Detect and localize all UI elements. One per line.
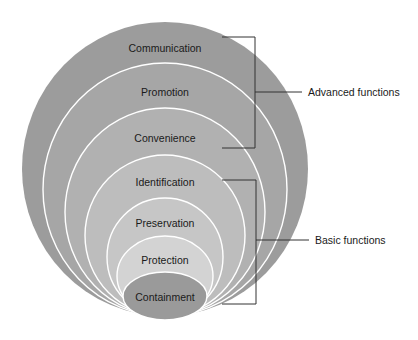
nested-ellipses bbox=[22, 22, 308, 320]
layer-label-identification: Identification bbox=[136, 176, 195, 188]
packaging-functions-diagram: CommunicationPromotionConvenienceIdentif… bbox=[0, 0, 418, 340]
layer-label-convenience: Convenience bbox=[134, 132, 195, 144]
basic-functions-label: Basic functions bbox=[315, 234, 386, 246]
advanced-functions-label: Advanced functions bbox=[308, 86, 400, 98]
layer-label-preservation: Preservation bbox=[136, 217, 195, 229]
layer-label-promotion: Promotion bbox=[141, 86, 189, 98]
layer-label-protection: Protection bbox=[141, 254, 188, 266]
layer-label-communication: Communication bbox=[129, 42, 202, 54]
layer-label-containment: Containment bbox=[135, 291, 195, 303]
